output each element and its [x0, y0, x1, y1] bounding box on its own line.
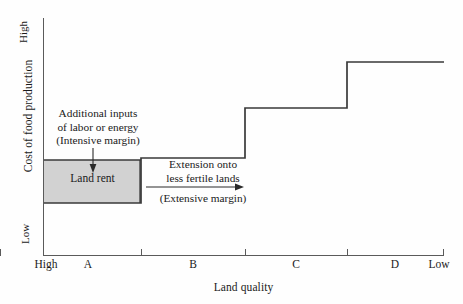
down-arrow-icon: [90, 148, 97, 173]
chart-figure: Cost of food production High Low High A …: [0, 0, 463, 304]
annotation-arrows: [0, 0, 463, 304]
right-arrow-icon: [146, 184, 244, 191]
